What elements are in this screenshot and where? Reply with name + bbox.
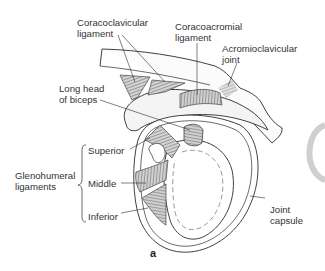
label-inferior: Inferior (88, 211, 118, 222)
shoulder-diagram (0, 0, 325, 271)
label-coracoclavicular: Coracoclavicular ligament (77, 17, 148, 39)
label-long-head-biceps: Long head of biceps (59, 83, 104, 105)
label-acromioclavicular: Acromioclavicular joint (222, 43, 297, 65)
edge-artifact (310, 125, 325, 180)
label-joint-capsule: Joint capsule (270, 204, 303, 226)
label-middle: Middle (88, 178, 116, 189)
glenohumeral-brace (78, 145, 86, 222)
label-coracoacromial: Coracoacromial ligament (175, 21, 242, 43)
label-glenohumeral: Glenohumeral ligaments (15, 170, 75, 192)
label-superior: Superior (88, 145, 124, 156)
biceps-long-head (184, 124, 203, 146)
panel-label: a (150, 247, 156, 259)
